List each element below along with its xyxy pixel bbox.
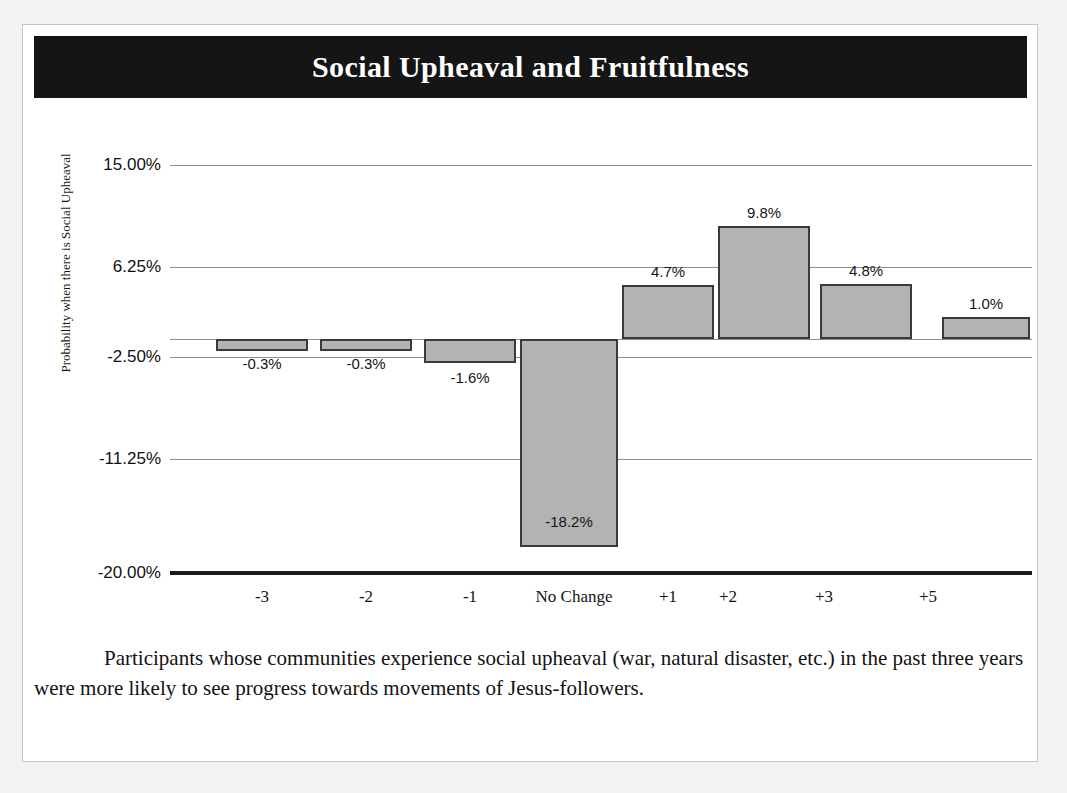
x-tick-label-minus-2: -2	[359, 587, 373, 607]
bar-minus-2[interactable]	[320, 339, 412, 351]
bar-label-minus-1: -1.6%	[450, 369, 489, 386]
y-tick-label: 15.00%	[69, 155, 161, 175]
bar-label-minus-2: -0.3%	[346, 355, 385, 372]
y-tick-label: -11.25%	[69, 449, 161, 469]
gridline-15	[170, 165, 1032, 166]
bar-label-no-change: -18.2%	[545, 513, 593, 530]
x-tick-label-plus-2: +2	[719, 587, 737, 607]
bar-label-plus-5: 1.0%	[969, 295, 1003, 312]
y-tick-label: 6.25%	[69, 257, 161, 277]
x-tick-label-no-change: No Change	[536, 587, 613, 607]
bar-label-minus-3: -0.3%	[242, 355, 281, 372]
y-tick-label: -2.50%	[69, 347, 161, 367]
x-tick-label-minus-3: -3	[255, 587, 269, 607]
bar-label-plus-1: 4.7%	[651, 263, 685, 280]
y-tick-label: -20.00%	[69, 563, 161, 583]
x-tick-label-plus-5: +5	[919, 587, 937, 607]
bar-plus-3[interactable]	[820, 284, 912, 339]
x-tick-label-plus-3: +3	[815, 587, 833, 607]
figure-caption: Participants whose communities experienc…	[34, 643, 1024, 704]
bar-label-plus-3: 4.8%	[849, 262, 883, 279]
bar-minus-1[interactable]	[424, 339, 516, 363]
gridline-6-25	[170, 267, 1032, 268]
x-tick-label-minus-1: -1	[463, 587, 477, 607]
x-tick-label-plus-1: +1	[659, 587, 677, 607]
figure-frame: Social Upheaval and Fruitfulness Probabi…	[22, 24, 1038, 762]
x-axis-line	[170, 571, 1032, 575]
bar-minus-3[interactable]	[216, 339, 308, 351]
bar-plus-5[interactable]	[942, 317, 1030, 339]
bar-plus-2[interactable]	[718, 226, 810, 339]
bar-label-plus-2: 9.8%	[747, 204, 781, 221]
bar-plus-1[interactable]	[622, 285, 714, 339]
